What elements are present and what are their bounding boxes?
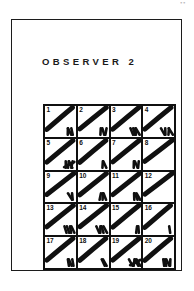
cell-number: 4 — [145, 106, 149, 114]
grid-cell[interactable]: 14 — [78, 204, 111, 237]
tally-marks — [45, 154, 76, 169]
scanned-page: •• OBSERVER 2 12345678910111213141516171… — [0, 0, 194, 291]
tally-marks — [45, 186, 76, 201]
tally-marks — [45, 219, 76, 234]
cell-number: 1 — [47, 106, 51, 114]
cell-number: 15 — [112, 204, 119, 212]
grid-cell[interactable]: 3 — [111, 106, 144, 139]
scan-artifact: •• — [180, 1, 191, 6]
grid-cell[interactable]: 6 — [78, 139, 111, 172]
page-frame: OBSERVER 2 12345678910111213141516171819… — [11, 19, 182, 271]
tally-marks — [78, 186, 109, 201]
cell-number: 11 — [112, 172, 119, 180]
cell-number: 8 — [145, 139, 149, 147]
cell-number: 5 — [47, 139, 51, 147]
grid-cell[interactable]: 4 — [143, 106, 176, 139]
tally-marks — [111, 154, 142, 169]
grid-cell[interactable]: 11 — [111, 172, 144, 205]
grid-cell[interactable]: 15 — [111, 204, 144, 237]
grid-cell[interactable]: 17 — [45, 237, 78, 270]
tally-marks — [78, 154, 109, 169]
cell-number: 17 — [47, 237, 54, 245]
cell-number: 9 — [47, 172, 51, 180]
grid-cell[interactable]: 19 — [111, 237, 144, 270]
grid-cell[interactable]: 2 — [78, 106, 111, 139]
grid-cell[interactable]: 16 — [143, 204, 176, 237]
tally-marks — [143, 186, 174, 201]
cell-number: 13 — [47, 204, 54, 212]
tally-marks — [143, 219, 174, 234]
tally-marks — [78, 219, 109, 234]
grid-cell[interactable]: 9 — [45, 172, 78, 205]
tally-marks — [78, 252, 109, 267]
tally-marks — [45, 121, 76, 136]
cell-number: 7 — [112, 139, 116, 147]
grid-cell[interactable]: 10 — [78, 172, 111, 205]
cell-number: 14 — [79, 204, 86, 212]
grid-cell[interactable]: 8 — [143, 139, 176, 172]
tally-marks — [45, 252, 76, 267]
cell-number: 10 — [79, 172, 86, 180]
cell-number: 18 — [79, 237, 86, 245]
grid-cell[interactable]: 20 — [143, 237, 176, 270]
cell-number: 19 — [112, 237, 119, 245]
tally-marks — [111, 252, 142, 267]
grid-cell[interactable]: 7 — [111, 139, 144, 172]
grid-cell[interactable]: 18 — [78, 237, 111, 270]
grid-cell[interactable]: 1 — [45, 106, 78, 139]
cell-number: 3 — [112, 106, 116, 114]
tally-marks — [78, 121, 109, 136]
tally-marks — [143, 154, 174, 169]
tally-marks — [111, 219, 142, 234]
tally-grid: 1234567891011121314151617181920 — [43, 104, 176, 270]
tally-marks — [111, 186, 142, 201]
tally-marks — [111, 121, 142, 136]
cell-number: 2 — [79, 106, 83, 114]
cell-number: 20 — [145, 237, 152, 245]
tally-marks — [143, 121, 174, 136]
page-title: OBSERVER 2 — [42, 56, 137, 67]
tally-marks — [143, 252, 174, 267]
cell-number: 6 — [79, 139, 83, 147]
cell-number: 12 — [145, 172, 152, 180]
grid-cell[interactable]: 12 — [143, 172, 176, 205]
cell-number: 16 — [145, 204, 152, 212]
grid-cell[interactable]: 5 — [45, 139, 78, 172]
grid-cell[interactable]: 13 — [45, 204, 78, 237]
